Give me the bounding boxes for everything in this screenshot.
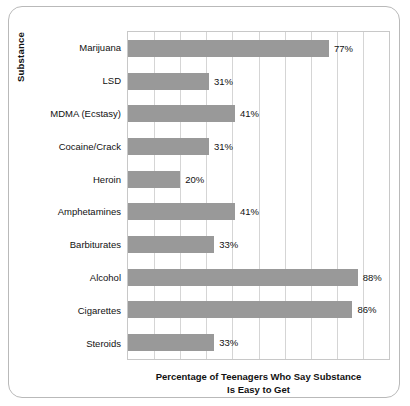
bar-mdma: [128, 105, 235, 122]
category-label-cigarettes: Cigarettes: [78, 305, 121, 316]
bar-row: 41%: [128, 97, 389, 130]
x-axis-title-line2: Is Easy to Get: [127, 383, 390, 396]
value-label-amphetamines: 41%: [240, 206, 259, 217]
value-label-lsd: 31%: [214, 76, 233, 87]
bar-row: 88%: [128, 261, 389, 294]
value-label-marijuana: 77%: [334, 43, 353, 54]
category-label-row: Steroids: [29, 327, 126, 360]
category-label-row: Barbiturates: [29, 228, 126, 261]
value-label-barbiturates: 33%: [219, 239, 238, 250]
category-label-row: MDMA (Ecstasy): [29, 97, 126, 130]
bar-row: 33%: [128, 228, 389, 261]
value-label-alcohol: 88%: [363, 272, 382, 283]
category-label-steroids: Steroids: [86, 338, 121, 349]
category-label-amphetamines: Amphetamines: [58, 206, 121, 217]
value-label-steroids: 33%: [219, 337, 238, 348]
category-label-row: Alcohol: [29, 261, 126, 294]
bar-cocaine-crack: [128, 138, 209, 155]
bar-row: 86%: [128, 294, 389, 327]
bar-steroids: [128, 334, 214, 351]
value-label-cocaine-crack: 31%: [214, 141, 233, 152]
value-label-cigarettes: 86%: [357, 304, 376, 315]
x-axis-title-line1: Percentage of Teenagers Who Say Substanc…: [127, 370, 390, 383]
bar-amphetamines: [128, 203, 235, 220]
value-label-mdma: 41%: [240, 108, 259, 119]
category-label-barbiturates: Barbiturates: [70, 239, 121, 250]
x-axis-title: Percentage of Teenagers Who Say Substanc…: [127, 370, 390, 396]
value-label-heroin: 20%: [185, 174, 204, 185]
plot-area: 77% 31% 41% 31% 20% 41% 33% 88% 86% 33%: [127, 31, 390, 360]
category-label-row: Marijuana: [29, 31, 126, 64]
bar-lsd: [128, 73, 209, 90]
bar-row: 20%: [128, 163, 389, 196]
bar-alcohol: [128, 269, 358, 286]
bar-marijuana: [128, 40, 329, 57]
bar-row: 31%: [128, 130, 389, 163]
bar-row: 31%: [128, 65, 389, 98]
bar-cigarettes: [128, 301, 352, 318]
category-label-row: LSD: [29, 64, 126, 97]
bar-row: 33%: [128, 326, 389, 359]
category-label-marijuana: Marijuana: [79, 42, 121, 53]
category-label-mdma: MDMA (Ecstasy): [50, 108, 121, 119]
category-label-column: Marijuana LSD MDMA (Ecstasy) Cocaine/Cra…: [29, 31, 126, 360]
category-label-row: Amphetamines: [29, 196, 126, 229]
category-label-lsd: LSD: [103, 75, 121, 86]
category-label-row: Heroin: [29, 163, 126, 196]
category-label-alcohol: Alcohol: [90, 272, 121, 283]
chart-frame: Substance Marijuana LSD MDMA (Ecstasy) C…: [8, 6, 400, 398]
bar-heroin: [128, 171, 180, 188]
bar-row: 77%: [128, 32, 389, 65]
category-label-row: Cocaine/Crack: [29, 130, 126, 163]
bar-row: 41%: [128, 196, 389, 229]
bar-barbiturates: [128, 236, 214, 253]
category-label-row: Cigarettes: [29, 294, 126, 327]
bar-series: 77% 31% 41% 31% 20% 41% 33% 88% 86% 33%: [128, 32, 389, 359]
category-label-heroin: Heroin: [93, 174, 121, 185]
category-label-cocaine-crack: Cocaine/Crack: [59, 141, 121, 152]
